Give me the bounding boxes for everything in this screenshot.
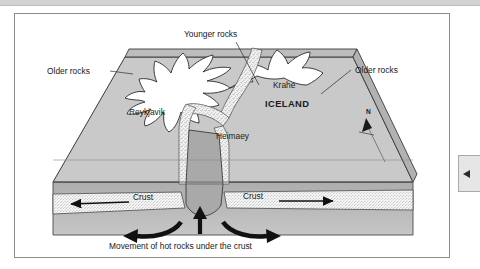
label-crust-left: Crust xyxy=(133,192,154,202)
screenshot-root: Younger rocks Older rocks Older rocks Kr… xyxy=(0,0,480,269)
label-krahe: Krahe xyxy=(273,80,296,90)
label-heimaey: Heimaey xyxy=(216,131,250,141)
label-reykjavik: Reykjavik xyxy=(129,107,166,117)
collapse-panel-tab[interactable] xyxy=(458,155,480,192)
label-older-rocks-left: Older rocks xyxy=(47,66,90,76)
left-arrow-icon xyxy=(463,170,470,178)
label-iceland: ICELAND xyxy=(265,98,309,109)
label-older-rocks-right: Older rocks xyxy=(355,65,398,75)
document-frame: Younger rocks Older rocks Older rocks Kr… xyxy=(14,13,450,258)
iceland-block-diagram: Younger rocks Older rocks Older rocks Kr… xyxy=(33,22,433,252)
label-caption: Movement of hot rocks under the crust xyxy=(109,241,253,251)
label-north: N xyxy=(366,108,371,115)
label-crust-right: Crust xyxy=(243,191,264,201)
top-strip xyxy=(0,0,480,6)
label-younger-rocks: Younger rocks xyxy=(184,29,237,39)
